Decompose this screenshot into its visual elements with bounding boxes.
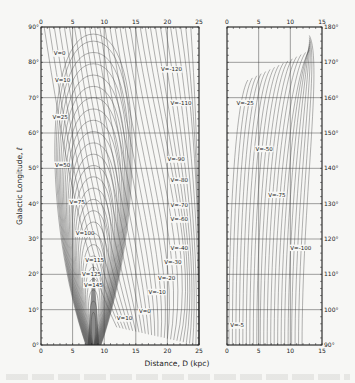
x-tick-top: 0 [225,18,229,25]
x-tick-bottom: 0 [39,347,43,354]
contour-label: V=75 [69,199,85,205]
y-tick: 0° [32,341,39,348]
x-tick-top: 25 [195,18,203,25]
contour-label: V=-90 [167,156,185,162]
velocity-contour-figure: 005510101515202025250°10°20°30°40°50°60°… [0,0,355,383]
contour-label: V=-110 [171,100,192,106]
y-tick: 110° [324,270,338,277]
x-tick-top: 10 [100,18,108,25]
x-tick-bottom: 15 [318,347,326,354]
contour-label: V=-120 [161,66,182,72]
x-tick-top: 10 [287,18,295,25]
contour-label: V=145 [84,282,103,288]
y-tick: 170° [324,58,338,65]
figure-caption-faint [6,374,350,380]
y-tick: 160° [324,94,338,101]
x-tick-top: 5 [71,18,75,25]
contour-label: V=-10 [148,289,166,295]
y-tick: 50° [28,164,39,171]
y-tick: 90° [28,23,39,30]
y-tick: 20° [28,270,39,277]
x-tick-top: 5 [257,18,261,25]
y-tick: 80° [28,58,39,65]
contour-label: V=0 [54,50,66,56]
contour-label: V=-40 [171,245,189,251]
y-axis-label: Galactic Longitude, ℓ [15,147,24,225]
contour-label: V=10 [55,77,71,83]
x-tick-top: 15 [132,18,140,25]
contour-label: V=-25 [237,100,255,106]
contour-label: V=25 [52,114,68,120]
y-tick: 90° [324,341,335,348]
y-tick: 10° [28,306,39,313]
contour-label: V=100 [76,230,95,236]
y-tick: 100° [324,306,338,313]
contour-label: V=-30 [164,259,182,265]
y-tick: 120° [324,235,338,242]
contour-label: V=-70 [171,202,189,208]
contour-label: V=125 [82,271,101,277]
y-tick: 130° [324,200,338,207]
panel-right: 00551010151590°100°110°120°130°140°150°1… [225,18,338,354]
contour-lines [44,27,199,345]
chart-canvas: 005510101515202025250°10°20°30°40°50°60°… [0,0,355,383]
x-tick-bottom: 15 [132,347,140,354]
x-tick-top: 20 [164,18,172,25]
contour-lines [229,35,314,345]
y-tick: 150° [324,129,338,136]
x-tick-bottom: 5 [71,347,75,354]
x-tick-bottom: 10 [287,347,295,354]
contour-label: V=-80 [171,177,189,183]
contour-label: V=-50 [256,146,274,152]
x-tick-bottom: 5 [257,347,261,354]
x-tick-bottom: 10 [100,347,108,354]
contour-label: V=-20 [158,275,176,281]
contour-label: V=0 [139,308,151,314]
y-tick: 30° [28,235,39,242]
panel-left: 005510101515202025250°10°20°30°40°50°60°… [28,18,203,354]
contour-label: V=10 [117,315,133,321]
contour-label: V=-75 [268,192,286,198]
x-axis-label: Distance, D (kpc) [145,359,210,368]
y-tick: 40° [28,200,39,207]
x-tick-bottom: 25 [195,347,203,354]
y-tick: 140° [324,164,338,171]
contour-label: V=115 [85,257,104,263]
x-tick-bottom: 20 [164,347,172,354]
x-tick-top: 0 [39,18,43,25]
contour-label: V=-60 [171,216,189,222]
y-tick: 60° [28,129,39,136]
contour-label: V=50 [55,162,71,168]
x-tick-bottom: 0 [225,347,229,354]
contour-label: V=-5 [230,322,244,328]
y-tick: 70° [28,94,39,101]
contour-label: V=-100 [290,245,311,251]
y-tick: 180° [324,23,338,30]
